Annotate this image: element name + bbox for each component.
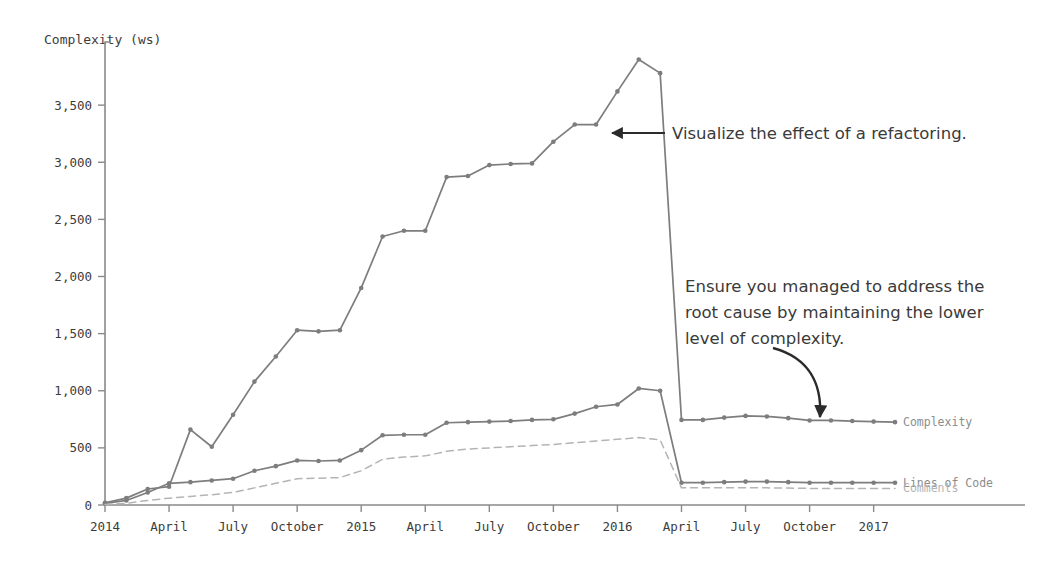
series-point [380,433,385,438]
annotation-root-cause-note: Ensure you managed to address theroot ca… [685,277,984,417]
series-point [850,419,855,424]
series-point [722,415,727,420]
y-tick-label: 500 [69,440,92,455]
x-tick-label: 2014 [90,519,120,534]
series-lines-of-code: Lines of Code [103,386,993,505]
annotation-text-root-cause-line: level of complexity. [685,329,844,348]
annotation-arrow-curved [773,348,820,417]
series-line [105,388,895,503]
series-point [209,444,214,449]
x-tick-label: July [474,519,505,534]
y-tick-label: 2,000 [54,269,92,284]
series-point [850,480,855,485]
series-point [893,420,898,425]
series-point [551,417,556,422]
series-point [252,468,257,473]
series-point [231,476,236,481]
annotation-text-refactoring: Visualize the effect of a refactoring. [672,124,967,143]
series-point [359,286,364,291]
series-point [295,458,300,463]
complexity-trend-chart: Complexity (ws)05001,0001,5002,0002,5003… [0,0,1042,562]
series-point [487,419,492,424]
series-point [679,418,684,423]
series-point [188,480,193,485]
series-point [466,174,471,179]
series-point [765,479,770,484]
series-point [145,490,150,495]
series-point [786,480,791,485]
series-point [316,329,321,334]
x-tick-label: April [406,519,444,534]
series-point [274,354,279,359]
series-point [679,480,684,485]
series-point [167,481,172,486]
series-point [380,234,385,239]
y-axis-ticks: 05001,0001,5002,0002,5003,0003,500 [54,98,105,513]
series-point [444,175,449,180]
series-point [295,328,300,333]
annotation-text-root-cause-line: root cause by maintaining the lower [685,303,984,322]
series-point [829,480,834,485]
series-point [807,480,812,485]
x-tick-label: October [271,519,324,534]
series-point [359,448,364,453]
y-tick-label: 1,000 [54,383,92,398]
series-point [508,162,513,167]
series-line [105,438,895,505]
series-point [124,498,129,503]
x-tick-label: October [527,519,580,534]
series-point [829,418,834,423]
series-point [765,414,770,419]
series-point [402,229,407,234]
series-point [444,420,449,425]
series-point [893,480,898,485]
x-tick-label: July [730,519,761,534]
series-point [466,420,471,425]
y-tick-label: 2,500 [54,212,92,227]
x-tick-label: 2017 [859,519,889,534]
series-point [572,411,577,416]
series-point [636,386,641,391]
series-point [338,328,343,333]
series-point [701,418,706,423]
series-point [188,427,193,432]
series-point [615,402,620,407]
series-point [338,458,343,463]
y-tick-label: 3,500 [54,98,92,113]
x-tick-label: 2016 [602,519,632,534]
series-point [594,404,599,409]
annotation-refactoring-note: Visualize the effect of a refactoring. [612,124,967,143]
series-point [530,418,535,423]
x-tick-label: July [218,519,249,534]
x-tick-label: April [150,519,188,534]
series-point [487,163,492,168]
series-point [209,478,214,483]
series-point [316,459,321,464]
x-tick-label: April [663,519,701,534]
series-point [615,89,620,94]
chart-canvas: Complexity (ws)05001,0001,5002,0002,5003… [0,0,1042,562]
series-point [743,414,748,419]
series-comments: Comments [105,438,958,505]
series-point [786,416,791,421]
series-point [722,480,727,485]
series-point [402,432,407,437]
series-point [701,480,706,485]
series-point [594,122,599,127]
series-label-complexity: Complexity [903,415,972,429]
annotation-text-root-cause-line: Ensure you managed to address the [685,277,984,296]
series-point [572,122,577,127]
y-tick-label: 3,000 [54,155,92,170]
series-point [743,479,748,484]
series-point [658,71,663,76]
series-point [423,229,428,234]
y-axis-title: Complexity (ws) [44,32,161,47]
series-point [807,418,812,423]
series-point [508,419,513,424]
series-point [530,161,535,166]
series-point [423,432,428,437]
series-point [274,464,279,469]
series-label-comments: Comments [903,481,958,495]
y-axis-line [105,42,111,505]
y-tick-label: 0 [84,498,92,513]
